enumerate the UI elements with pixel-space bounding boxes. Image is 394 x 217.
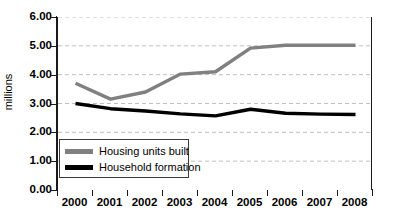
x-axis-tick-mark [197, 190, 198, 196]
x-axis-tick-mark [92, 190, 93, 196]
series-line [76, 104, 356, 116]
y-axis-tick-label: 3.00 [12, 98, 52, 110]
y-axis-tick-mark [51, 132, 58, 133]
x-axis-tick-mark [57, 190, 58, 196]
x-axis-tick-label: 2002 [127, 196, 162, 214]
x-axis-tick-mark [372, 190, 373, 196]
y-axis-tick-labels: 6.005.004.003.002.001.000.00 [10, 0, 52, 217]
legend-label: Housing units built [99, 145, 189, 157]
series-line [76, 45, 356, 99]
legend-label: Household formation [99, 161, 201, 173]
x-axis-tick-label: 2000 [57, 196, 92, 214]
x-axis-tick-mark [127, 190, 128, 196]
y-axis-tick-mark [51, 75, 58, 76]
y-axis-tick-label: 1.00 [12, 155, 52, 167]
y-axis-tick-mark [51, 46, 58, 47]
x-axis-tick-label: 2007 [302, 196, 337, 214]
y-axis-tick-mark [51, 17, 58, 18]
x-axis-tick-label: 2004 [197, 196, 232, 214]
chart-legend: Housing units built Household formation [59, 139, 189, 178]
y-axis-tick-label: 0.00 [12, 184, 52, 196]
y-axis-tick-label: 2.00 [12, 126, 52, 138]
x-axis-tick-mark [232, 190, 233, 196]
x-axis-tick-label: 2008 [337, 196, 372, 214]
legend-swatch-gray [65, 149, 93, 154]
x-axis-tick-labels: 200020012002200320042005200620072008 [57, 196, 372, 214]
legend-item-housing-units-built: Housing units built [65, 143, 184, 159]
y-axis-tick-label: 5.00 [12, 40, 52, 52]
x-axis-tick-mark [267, 190, 268, 196]
x-axis-tick-label: 2006 [267, 196, 302, 214]
x-axis-tick-label: 2001 [92, 196, 127, 214]
y-axis-tick-label: 6.00 [12, 11, 52, 23]
y-axis-tick-mark [51, 104, 58, 105]
x-axis-tick-mark [302, 190, 303, 196]
y-axis-tick-label: 4.00 [12, 69, 52, 81]
legend-swatch-black [65, 165, 93, 170]
y-axis-tick-mark [51, 161, 58, 162]
legend-item-household-formation: Household formation [65, 159, 184, 175]
x-axis-tick-mark [337, 190, 338, 196]
x-axis-tick-label: 2005 [232, 196, 267, 214]
x-axis-tick-label: 2003 [162, 196, 197, 214]
x-axis-tick-mark [162, 190, 163, 196]
line-chart: millions 6.005.004.003.002.001.000.00 20… [0, 0, 394, 217]
